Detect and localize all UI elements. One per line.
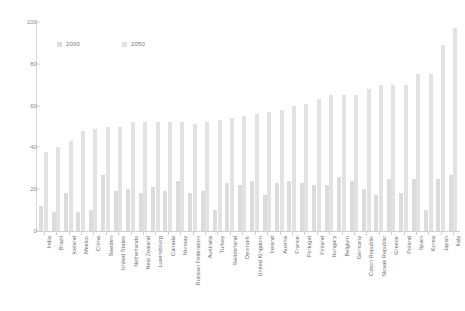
bar[interactable] [188, 193, 192, 231]
bar[interactable] [404, 85, 408, 231]
bar[interactable] [391, 85, 395, 231]
bar[interactable] [101, 175, 105, 231]
bar[interactable] [139, 193, 143, 231]
bar[interactable] [114, 191, 118, 231]
bar[interactable] [176, 181, 180, 231]
bar[interactable] [143, 122, 147, 231]
bar[interactable] [312, 185, 316, 231]
bar[interactable] [280, 110, 284, 231]
bar[interactable] [180, 122, 184, 231]
bar[interactable] [218, 120, 222, 231]
x-axis-label: Greece [393, 236, 399, 255]
bar[interactable] [416, 74, 420, 231]
x-axis-label: Hungary [331, 236, 337, 258]
bar[interactable] [379, 85, 383, 231]
y-tick-label: 60 [0, 103, 37, 109]
x-tick-mark [193, 232, 194, 235]
bar[interactable] [424, 210, 428, 231]
bar[interactable] [56, 147, 60, 231]
bar[interactable] [81, 131, 85, 231]
x-axis-label: Denmark [244, 236, 250, 259]
bar[interactable] [292, 106, 296, 231]
bar[interactable] [151, 187, 155, 231]
x-axis-label: Italy [455, 236, 461, 247]
bar[interactable] [399, 193, 403, 231]
bar[interactable] [354, 95, 358, 231]
bar[interactable] [213, 210, 217, 231]
bar[interactable] [263, 195, 267, 231]
bar[interactable] [52, 212, 56, 231]
y-tick-label: 20 [0, 186, 37, 192]
x-tick-mark [143, 232, 144, 235]
bar[interactable] [441, 45, 445, 231]
bar[interactable] [225, 183, 229, 231]
bar[interactable] [287, 181, 291, 231]
x-axis-label: Netherlands [133, 236, 139, 267]
bar[interactable] [76, 212, 80, 231]
bar[interactable] [267, 112, 271, 231]
bar[interactable] [412, 179, 416, 231]
bar[interactable] [300, 183, 304, 231]
bar[interactable] [44, 152, 48, 231]
x-tick-mark [267, 232, 268, 235]
bar[interactable] [387, 179, 391, 231]
x-axis-label: New Zealand [145, 236, 151, 270]
bar[interactable] [69, 141, 73, 231]
bar[interactable] [168, 122, 172, 231]
x-tick-mark [131, 232, 132, 235]
bar[interactable] [350, 181, 354, 231]
x-axis-label: United Kingdom [257, 236, 263, 277]
bar[interactable] [325, 185, 329, 231]
bar[interactable] [126, 189, 130, 231]
bar[interactable] [201, 191, 205, 231]
bar[interactable] [449, 175, 453, 231]
bar[interactable] [64, 193, 68, 231]
bar[interactable] [230, 118, 234, 231]
x-tick-mark [428, 232, 429, 235]
bar[interactable] [304, 104, 308, 231]
x-axis-label: Russian Federation [195, 236, 201, 285]
bar[interactable] [329, 95, 333, 231]
x-axis-label: India [46, 236, 52, 248]
x-axis-label: Portugal [306, 236, 312, 257]
bar[interactable] [106, 127, 110, 232]
x-axis-label: Czech Republic [368, 236, 374, 276]
bar[interactable] [367, 89, 371, 231]
bar[interactable] [374, 195, 378, 231]
bar[interactable] [118, 127, 122, 232]
bar[interactable] [250, 181, 254, 231]
bar[interactable] [193, 124, 197, 231]
x-axis-label: Germany [356, 236, 362, 259]
bar[interactable] [163, 191, 167, 231]
x-tick-mark [69, 232, 70, 235]
bar[interactable] [93, 129, 97, 231]
x-axis-label: Ireland [269, 236, 275, 253]
bar[interactable] [317, 99, 321, 231]
bar[interactable] [205, 122, 209, 231]
x-axis-label: Mexico [83, 236, 89, 254]
bar[interactable] [337, 177, 341, 231]
x-axis-label: Korea [430, 236, 436, 251]
bar[interactable] [238, 185, 242, 231]
x-axis-label: Canada [170, 236, 176, 256]
bar[interactable] [255, 114, 259, 231]
x-tick-mark [391, 232, 392, 235]
bar[interactable] [39, 206, 43, 231]
bar[interactable] [89, 210, 93, 231]
plot-area [37, 22, 459, 231]
bar[interactable] [429, 74, 433, 231]
x-axis-label: Turkey [219, 236, 225, 253]
bar[interactable] [453, 28, 457, 231]
bar[interactable] [275, 183, 279, 231]
bar[interactable] [242, 116, 246, 231]
x-tick-mark [416, 232, 417, 235]
bar[interactable] [156, 122, 160, 231]
x-tick-mark [56, 232, 57, 235]
y-tick-label: 100 [0, 19, 37, 25]
bar[interactable] [342, 95, 346, 231]
bar[interactable] [362, 189, 366, 231]
bar[interactable] [131, 122, 135, 231]
x-tick-mark [217, 232, 218, 235]
bar[interactable] [436, 179, 440, 231]
x-tick-mark [354, 232, 355, 235]
